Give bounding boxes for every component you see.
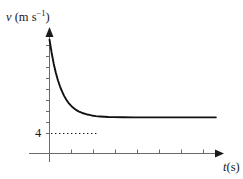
y-axis-units-close: ) bbox=[46, 10, 50, 24]
x-axis-arrowhead bbox=[215, 150, 224, 158]
y-axis-units-open: (m s bbox=[12, 10, 37, 24]
y-axis-units-exponent: −1 bbox=[37, 8, 46, 18]
y-axis-arrowhead bbox=[46, 27, 54, 37]
velocity-decay-curve bbox=[50, 40, 216, 118]
plot-canvas bbox=[0, 0, 243, 179]
x-axis-label: t(s) bbox=[223, 161, 240, 174]
y-axis-label: v (m s−1) bbox=[6, 9, 50, 24]
velocity-time-graph-figure: v (m s−1) t(s) 4 bbox=[0, 0, 243, 179]
x-axis-units: (s) bbox=[226, 160, 239, 174]
y-axis-tick-label-4: 4 bbox=[35, 127, 41, 140]
x-axis-ticks bbox=[72, 150, 204, 154]
y-axis-ticks bbox=[46, 46, 50, 134]
